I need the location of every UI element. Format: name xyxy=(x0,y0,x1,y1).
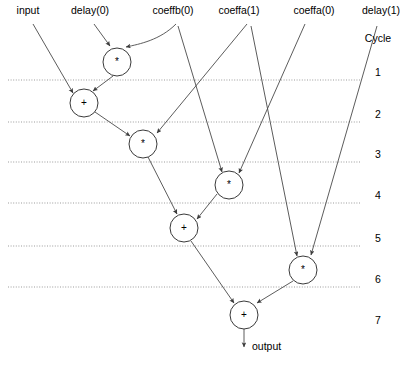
input-label-coeffb0: coeffb(0) xyxy=(152,4,193,16)
edge-e-m2-a2 xyxy=(148,157,177,214)
output-label: output xyxy=(252,340,281,352)
edge-e-coeffa1-m2 xyxy=(157,24,247,133)
cycle-number-1: 1 xyxy=(375,66,381,78)
node-m1[interactable]: * xyxy=(103,48,131,76)
cycle-lines-group xyxy=(8,80,361,287)
edges-group xyxy=(33,24,377,347)
edge-e-delay1-m4 xyxy=(311,26,377,255)
node-operator-a3: + xyxy=(241,309,247,320)
node-a2[interactable]: + xyxy=(170,214,198,242)
cycle-axis-title: Cycle xyxy=(365,32,391,44)
input-label-delay1: delay(1) xyxy=(362,4,400,16)
node-operator-a2: + xyxy=(181,222,187,233)
edge-e-a2-a3 xyxy=(191,241,234,303)
edge-e-coeffa1-m4 xyxy=(251,26,297,256)
cycle-number-4: 4 xyxy=(375,189,381,201)
node-operator-m4: * xyxy=(301,264,305,275)
edge-e-a1-m2 xyxy=(95,112,130,136)
input-label-input: input xyxy=(17,4,40,16)
dataflow-diagram: *+**+*+ inputdelay(0)coeffb(0)coeffa(1)c… xyxy=(0,0,419,367)
input-label-coeffa1: coeffa(1) xyxy=(218,4,259,16)
cycle-number-5: 5 xyxy=(375,232,381,244)
edge-e-coeffa0-m3 xyxy=(239,24,305,173)
node-a1[interactable]: + xyxy=(70,89,98,117)
edge-e-m1-a1 xyxy=(93,76,113,91)
edge-e-coeffb0-m1 xyxy=(126,24,176,47)
edge-e-m4-a3 xyxy=(257,281,293,303)
edge-e-input-a1 xyxy=(33,24,73,93)
node-a3[interactable]: + xyxy=(230,301,258,329)
node-m4[interactable]: * xyxy=(289,256,317,284)
edge-e-m3-a2 xyxy=(197,194,217,219)
input-label-coeffa0: coeffa(0) xyxy=(293,4,334,16)
node-m3[interactable]: * xyxy=(215,171,243,199)
input-labels-group: inputdelay(0)coeffb(0)coeffa(1)coeffa(0)… xyxy=(17,4,400,352)
node-m2[interactable]: * xyxy=(129,130,157,158)
cycle-number-7: 7 xyxy=(375,314,381,326)
diagram-canvas: *+**+*+ inputdelay(0)coeffb(0)coeffa(1)c… xyxy=(0,0,419,367)
cycle-number-2: 2 xyxy=(375,108,381,120)
edge-e-delay0-m1 xyxy=(94,24,110,46)
input-label-delay0: delay(0) xyxy=(71,4,109,16)
cycle-axis-labels-group: Cycle1234567 xyxy=(365,32,391,326)
cycle-number-3: 3 xyxy=(375,148,381,160)
node-operator-m3: * xyxy=(227,179,231,190)
node-operator-a1: + xyxy=(81,97,87,108)
cycle-number-6: 6 xyxy=(375,273,381,285)
node-operator-m1: * xyxy=(115,56,119,67)
node-operator-m2: * xyxy=(141,138,145,149)
